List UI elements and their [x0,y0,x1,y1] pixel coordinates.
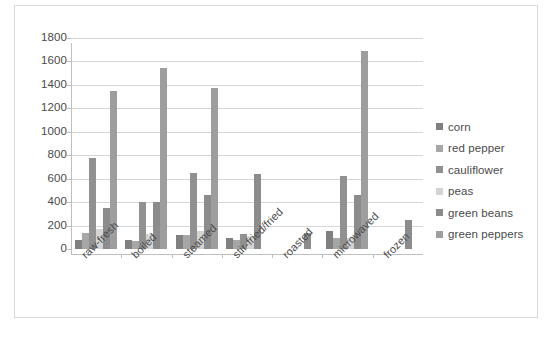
y-axis-tick-label: 1600 [21,56,67,68]
y-axis-tick-label: 200 [21,220,67,232]
y-axis-tick-label: 1200 [21,103,67,115]
chart-frame: 180016001400120010008006004002000 raw-fr… [14,5,538,318]
bar [176,235,183,249]
bar [226,238,233,249]
y-axis-tick-label: 600 [21,173,67,185]
y-axis-tick-labels: 180016001400120010008006004002000 [19,33,67,250]
legend-swatch-icon [436,209,443,216]
legend-item[interactable]: cauliflower [436,159,548,181]
legend-swatch-icon [436,145,443,152]
y-axis-tick-label: 0 [21,243,67,255]
legend-item-label: cauliflower [448,164,503,176]
y-axis-tick-label: 800 [21,149,67,161]
legend-item[interactable]: green peppers [436,224,548,246]
bar [326,231,333,249]
bar-group [125,38,169,249]
y-axis-tick-label: 1800 [21,32,67,44]
legend-swatch-icon [436,231,443,238]
bar [75,240,82,249]
bar [125,240,132,249]
y-axis-tick-label: 400 [21,196,67,208]
bar-group [75,38,119,249]
legend-item-label: red pepper [448,142,505,154]
legend-swatch-icon [436,166,443,173]
x-axis-category-labels: raw-freshboiledsteamedstir-fried/friedro… [71,252,423,320]
bar [160,68,167,249]
legend-item-label: green peppers [448,228,523,240]
legend-item[interactable]: peas [436,181,548,203]
bar-group [176,38,220,249]
legend-item-label: green beans [448,207,513,219]
legend-item[interactable]: green beans [436,202,548,224]
legend-item-label: corn [448,121,471,133]
y-axis-tick-label: 1400 [21,79,67,91]
legend-swatch-icon [436,123,443,130]
legend-swatch-icon [436,188,443,195]
y-axis-tick-label: 1000 [21,126,67,138]
legend-item[interactable]: corn [436,116,548,138]
bar-group [377,38,421,249]
chart-legend: cornred peppercauliflowerpeasgreen beans… [436,116,548,245]
y-axis-line [71,43,72,254]
legend-item-label: peas [448,185,473,197]
legend-item[interactable]: red pepper [436,138,548,160]
bar-group [276,38,320,249]
